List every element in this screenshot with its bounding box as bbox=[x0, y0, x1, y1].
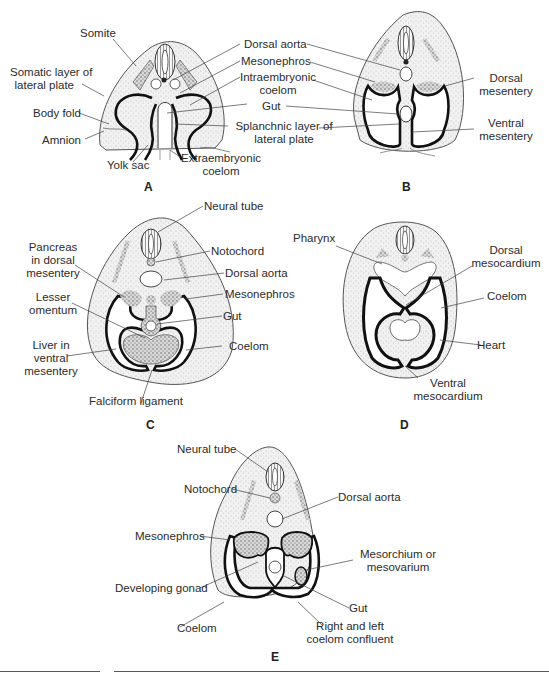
diagram-a bbox=[79, 39, 247, 162]
label-gut-c: Gut bbox=[223, 310, 242, 323]
label-falciform-ligament: Falciform ligament bbox=[89, 395, 183, 408]
label-dorsal-mesentery-line1: Dorsal bbox=[474, 72, 538, 85]
label-dorsal-aorta-e: Dorsal aorta bbox=[338, 491, 401, 504]
label-gut-e: Gut bbox=[349, 602, 368, 615]
label-lesser-omentum-line1: Lesser bbox=[18, 291, 88, 304]
label-notochord-e: Notochord bbox=[184, 483, 237, 496]
label-ventral-mesocardium-line2: mesocardium bbox=[410, 390, 486, 403]
label-dorsal-mesentery-line2: mesentery bbox=[474, 85, 538, 98]
label-body-fold: Body fold bbox=[33, 107, 81, 120]
label-ventral-mesentery-line2: mesentery bbox=[474, 130, 538, 143]
label-notochord-c: Notochord bbox=[211, 245, 264, 258]
label-splanchnic-line2: lateral plate bbox=[228, 133, 340, 146]
panel-letter-a: A bbox=[144, 180, 153, 194]
label-somatic-layer-line2: lateral plate bbox=[10, 79, 74, 92]
diagram-e bbox=[180, 447, 353, 627]
bottom-rule-right bbox=[114, 671, 549, 672]
diagram-d bbox=[336, 222, 484, 378]
label-liver-line1: Liver in bbox=[16, 339, 86, 352]
label-confluent-line1: Right and left bbox=[300, 620, 400, 633]
panel-letter-e: E bbox=[271, 650, 279, 664]
label-pancreas-line3: mesentery bbox=[18, 267, 88, 280]
panel-letter-c: C bbox=[146, 418, 155, 432]
label-pancreas-line1: Pancreas bbox=[18, 241, 88, 254]
label-pharynx: Pharynx bbox=[293, 232, 335, 245]
diagram-c bbox=[67, 206, 233, 403]
label-intraembryonic-line2: coelom bbox=[236, 84, 320, 97]
label-coelom-c: Coelom bbox=[229, 340, 269, 353]
bottom-rule-left bbox=[0, 671, 100, 672]
label-dorsal-mesocardium-line2: mesocardium bbox=[468, 257, 544, 270]
label-ventral-mesocardium-line1: Ventral bbox=[410, 377, 486, 390]
label-pancreas-line2: in dorsal bbox=[18, 254, 88, 267]
label-dorsal-aorta-a: Dorsal aorta bbox=[244, 38, 307, 51]
label-mesonephros-a: Mesonephros bbox=[241, 55, 311, 68]
label-coelom-e: Coelom bbox=[177, 622, 217, 635]
label-lesser-omentum-line2: omentum bbox=[18, 304, 88, 317]
label-liver-line2: ventral bbox=[16, 352, 86, 365]
label-neural-tube-c: Neural tube bbox=[204, 200, 263, 213]
label-amnion: Amnion bbox=[42, 134, 81, 147]
label-mesonephros-e: Mesonephros bbox=[135, 530, 205, 543]
label-mesorchium-line2: mesovarium bbox=[350, 561, 446, 574]
label-splanchnic-line1: Splanchnic layer of bbox=[228, 120, 340, 133]
label-somatic-layer-line1: Somatic layer of bbox=[10, 66, 84, 79]
label-dorsal-mesocardium-line1: Dorsal bbox=[468, 244, 544, 257]
label-mesonephros-c: Mesonephros bbox=[225, 288, 295, 301]
label-extraembryonic-line2: coelom bbox=[178, 165, 264, 178]
label-somite: Somite bbox=[80, 27, 116, 40]
label-coelom-d: Coelom bbox=[487, 290, 527, 303]
label-intraembryonic-line1: Intraembryonic bbox=[236, 71, 320, 84]
label-mesorchium-line1: Mesorchium or bbox=[350, 548, 446, 561]
label-ventral-mesentery-line1: Ventral bbox=[474, 117, 538, 130]
label-heart: Heart bbox=[477, 339, 505, 352]
panel-letter-b: B bbox=[402, 180, 411, 194]
label-dorsal-aorta-c: Dorsal aorta bbox=[225, 267, 288, 280]
panel-letter-d: D bbox=[400, 418, 409, 432]
label-developing-gonad: Developing gonad bbox=[115, 582, 208, 595]
label-yolk-sac: Yolk sac bbox=[107, 159, 149, 172]
label-neural-tube-e: Neural tube bbox=[177, 443, 236, 456]
label-liver-line3: mesentery bbox=[16, 365, 86, 378]
label-gut-a: Gut bbox=[262, 100, 281, 113]
label-confluent-line2: coelom confluent bbox=[300, 633, 400, 646]
label-extraembryonic-line1: Extraembryonic bbox=[178, 152, 264, 165]
